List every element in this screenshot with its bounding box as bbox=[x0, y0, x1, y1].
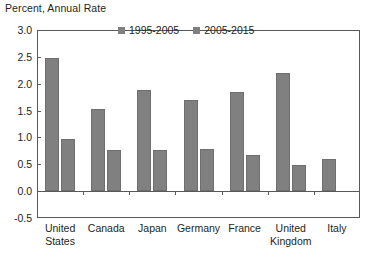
bar bbox=[153, 150, 167, 191]
legend-item-series-2: 2005-2015 bbox=[193, 24, 254, 36]
bar bbox=[107, 150, 121, 191]
x-axis-label-line: Germany bbox=[175, 222, 221, 235]
bar bbox=[292, 165, 306, 191]
x-axis-label-line: Italy bbox=[314, 222, 360, 235]
y-axis-tick-label: 0.5 bbox=[0, 159, 32, 170]
x-axis-label-line: Kingdom bbox=[268, 235, 314, 248]
legend-swatch-icon bbox=[193, 27, 200, 34]
y-axis-tick-label: 1.0 bbox=[0, 132, 32, 143]
x-axis-label-line: United bbox=[268, 222, 314, 235]
x-axis-category-label: UnitedKingdom bbox=[268, 222, 314, 247]
bar bbox=[200, 149, 214, 191]
bar bbox=[230, 92, 244, 191]
y-axis-tick-mark bbox=[37, 57, 41, 58]
y-axis-tick-mark bbox=[37, 137, 41, 138]
bar bbox=[61, 139, 75, 191]
x-axis-label-line: United bbox=[37, 222, 83, 235]
y-axis-tick-label: 3.0 bbox=[0, 25, 32, 36]
bar bbox=[45, 58, 59, 191]
legend-item-series-1: 1995-2005 bbox=[118, 24, 179, 36]
y-axis-tick-label: 1.5 bbox=[0, 106, 32, 117]
bar bbox=[137, 90, 151, 192]
y-axis-tick-mark bbox=[37, 84, 41, 85]
y-axis-tick-label: 2.5 bbox=[0, 52, 32, 63]
bar bbox=[276, 73, 290, 191]
y-axis-tick-label: 2.0 bbox=[0, 79, 32, 90]
x-axis-label-line: France bbox=[222, 222, 268, 235]
x-axis-category-label: UnitedStates bbox=[37, 222, 83, 247]
bars-layer bbox=[37, 30, 360, 218]
chart-legend: 1995-2005 2005-2015 bbox=[118, 24, 254, 36]
legend-swatch-icon bbox=[118, 27, 125, 34]
x-axis-label-line: Japan bbox=[129, 222, 175, 235]
x-axis-label-line: States bbox=[37, 235, 83, 248]
bar-chart: Percent, Annual Rate 3.02.52.01.51.00.50… bbox=[0, 0, 367, 271]
y-axis-tick-mark bbox=[37, 164, 41, 165]
legend-label: 2005-2015 bbox=[204, 24, 254, 36]
zero-baseline bbox=[37, 191, 360, 192]
legend-label: 1995-2005 bbox=[129, 24, 179, 36]
bar bbox=[246, 155, 260, 192]
x-axis-label-line: Canada bbox=[83, 222, 129, 235]
x-axis-category-label: Germany bbox=[175, 222, 221, 235]
y-axis-tick-mark bbox=[37, 111, 41, 112]
x-axis-category-label: Italy bbox=[314, 222, 360, 235]
bar bbox=[184, 100, 198, 191]
bar bbox=[322, 159, 336, 191]
x-axis-category-label: Japan bbox=[129, 222, 175, 235]
bar bbox=[91, 109, 105, 191]
x-axis-category-label: France bbox=[222, 222, 268, 235]
x-axis-labels: UnitedStatesCanadaJapanGermanyFranceUnit… bbox=[0, 222, 367, 267]
x-axis-category-label: Canada bbox=[83, 222, 129, 235]
y-axis-tick-label: 0.0 bbox=[0, 186, 32, 197]
